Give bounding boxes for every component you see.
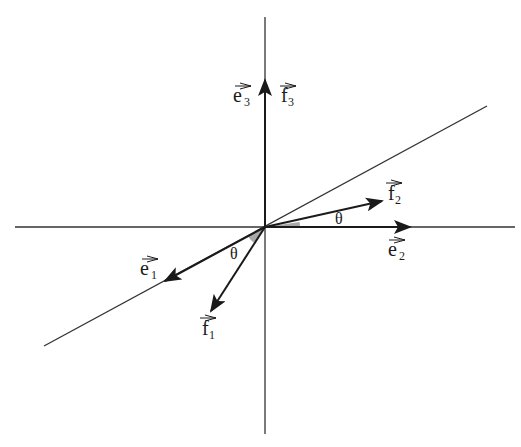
theta-label-right: θ	[335, 210, 343, 227]
label-e1: e 1	[140, 257, 158, 282]
svg-text:2: 2	[395, 193, 401, 207]
label-e2: e 2	[388, 238, 405, 263]
vector-f1	[211, 227, 265, 311]
svg-text:e: e	[388, 238, 397, 260]
svg-text:f: f	[202, 317, 209, 339]
svg-text:1: 1	[209, 328, 215, 342]
vector-f2	[265, 201, 382, 227]
theta-label-left: θ	[230, 245, 238, 262]
label-e3: e 3	[233, 84, 251, 109]
svg-text:3: 3	[244, 95, 250, 109]
label-f1: f 1	[200, 317, 216, 342]
svg-text:e: e	[140, 257, 149, 279]
label-f2: f 2	[386, 182, 402, 207]
svg-text:3: 3	[288, 95, 294, 109]
svg-text:e: e	[233, 84, 242, 106]
svg-text:f: f	[281, 84, 288, 106]
rotation-diagram: e 3 f 3 f 2 e 2 e 1 f 1 θ θ	[0, 0, 521, 447]
svg-text:2: 2	[399, 249, 405, 263]
svg-text:1: 1	[151, 268, 157, 282]
vector-e1	[165, 227, 265, 281]
svg-text:f: f	[388, 182, 395, 204]
label-f3: f 3	[280, 84, 296, 109]
